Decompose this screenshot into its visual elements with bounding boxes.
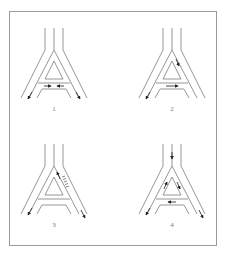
panel-1: 1 (21, 28, 87, 113)
panel-label: 2 (170, 105, 174, 113)
panel-label: 4 (170, 221, 174, 229)
arrow-icon (199, 210, 203, 218)
arrow-icon (81, 210, 85, 218)
panel-3: 3 (21, 144, 87, 229)
figure-frame (10, 12, 217, 246)
arrow-icon (57, 172, 60, 179)
panel-label: 1 (52, 105, 56, 113)
arrow-icon (28, 208, 32, 215)
panel-4: 4 (139, 144, 205, 229)
panel-2: 2 (139, 28, 205, 113)
arrow-icon (146, 208, 150, 215)
panel-label: 3 (52, 221, 56, 229)
junction-diagram-figure: 1 2 3 4 (0, 0, 226, 256)
arrow-icon (28, 92, 32, 99)
arrow-icon (76, 92, 80, 99)
arrow-icon (146, 92, 150, 99)
